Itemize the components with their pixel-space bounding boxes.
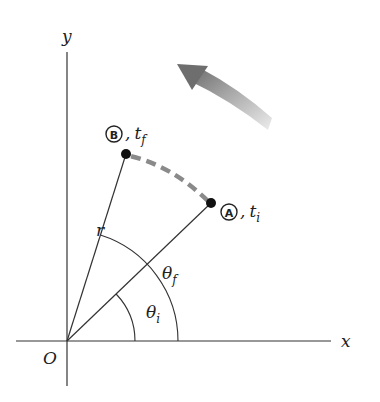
time-subscript: i xyxy=(256,211,260,225)
rotation-direction-arrow-icon xyxy=(177,64,272,130)
point-b-dot xyxy=(121,149,131,159)
point-a-dot xyxy=(206,198,216,208)
theta-i-symbol: θ xyxy=(146,302,156,322)
origin-label: O xyxy=(43,348,57,368)
theta-i-arc xyxy=(116,294,135,341)
point-a-letter: A xyxy=(225,207,234,220)
radius-label: r xyxy=(96,220,105,240)
theta-f-symbol: θ xyxy=(162,263,172,283)
theta-f-arc xyxy=(100,235,178,341)
x-axis-label: x xyxy=(341,331,351,351)
point-a-time: ,ti xyxy=(240,201,260,225)
y-axis-label: y xyxy=(61,26,72,46)
point-a-label: A ,ti xyxy=(221,201,260,225)
theta-f-label: θf xyxy=(162,263,179,287)
comma: , xyxy=(125,123,130,143)
point-b-letter: B xyxy=(110,129,118,142)
diagram-canvas: y x O r θf θi B ,tf A ,ti xyxy=(0,0,380,402)
point-b-time: ,tf xyxy=(125,123,148,147)
comma: , xyxy=(240,201,245,221)
theta-f-subscript: f xyxy=(171,273,179,287)
theta-i-subscript: i xyxy=(156,312,160,326)
point-b-label: B ,tf xyxy=(106,123,148,147)
dashed-path xyxy=(130,156,208,201)
time-subscript: f xyxy=(140,133,148,147)
theta-i-label: θi xyxy=(146,302,160,326)
